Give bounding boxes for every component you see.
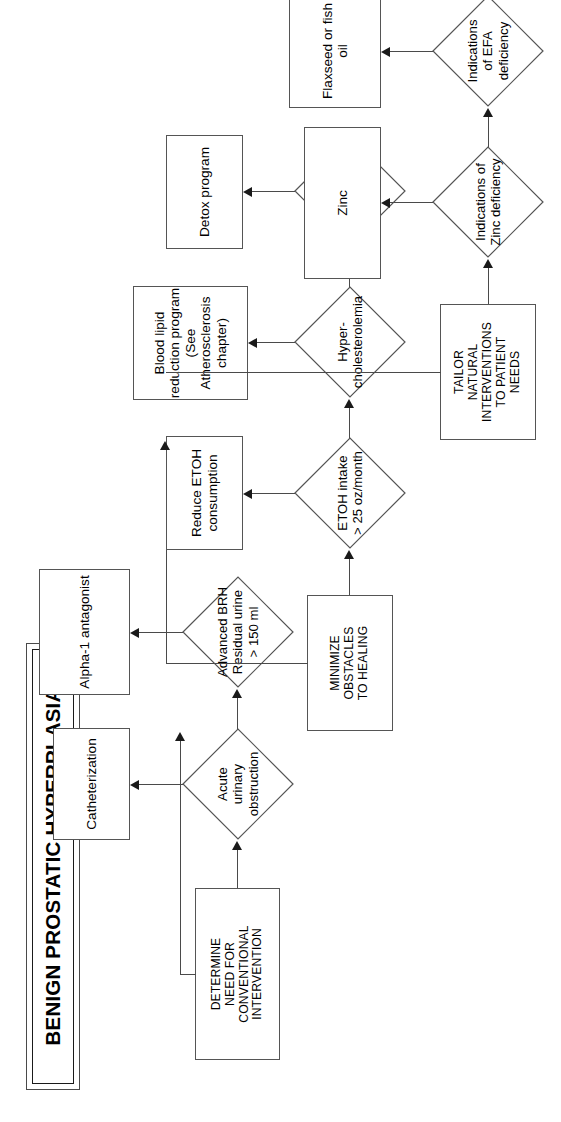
arrowhead-stage2-to-etoh (344, 550, 354, 559)
connector-zinc-to-efa (488, 114, 489, 147)
spine-stage3-riser (166, 372, 441, 373)
stage-node-conventional: DETERMINE NEED FOR CONVENTIONAL INTERVEN… (195, 888, 280, 1060)
connector-pesticide-to-detox (251, 191, 295, 192)
outcome-node-alpha1-antagonist: Alpha-1 antagonist (39, 569, 130, 695)
connector-acute-to-advanced (237, 695, 238, 729)
arrowhead-etoh-to-reduce (243, 489, 252, 499)
connector-zinc-to-zinc-outcome (389, 202, 433, 203)
arrowhead-stage1-to-acute (232, 841, 242, 850)
outcome-node-catheterization: Catheterization (53, 728, 130, 840)
decision-advanced-bph: Advanced BRH Residual urine > 150 ml (182, 576, 294, 688)
connector-etoh-to-reduce (251, 493, 295, 494)
arrowhead-acute-to-catheterization (130, 780, 139, 790)
diamond-shape (294, 437, 406, 549)
connector-etoh-to-hyperchol (349, 405, 350, 438)
diagram-title-box: BENIGN PROSTATIC HYPERPLASIA (26, 643, 80, 1090)
arrowhead-efa-to-flaxseed (381, 47, 390, 57)
diamond-shape (432, 146, 544, 258)
stage-node-natural-interventions: TAILOR NATURAL INTERVENTIONS TO PATIENT … (440, 304, 536, 440)
connector-stage2-to-etoh (349, 555, 350, 595)
outcome-node-detox-program: Detox program (166, 135, 243, 249)
arrowhead-advanced-to-alpha1 (130, 628, 139, 638)
decision-acute-urinary-obstruction: Acute urinary obstruction (182, 728, 294, 840)
arrowhead-zinc-to-efa (483, 108, 493, 117)
arrowhead-pesticide-to-detox (243, 187, 252, 197)
connector-efa-to-flaxseed (389, 51, 433, 52)
outcome-node-zinc: Zinc (304, 127, 381, 279)
connector-acute-to-catheterization (138, 784, 183, 785)
arrowhead-spine-into-stage2 (175, 732, 185, 741)
spine-stage1-riser (180, 974, 196, 975)
flowchart-canvas: BENIGN PROSTATIC HYPERPLASIA DETERMINE N… (0, 0, 561, 1122)
decision-hypercholesterolemia: Hyper- cholesterolemia (294, 286, 406, 398)
decision-efa-deficiency: Indications of EFA deficiency (432, 0, 544, 107)
diagram-rotation-wrapper: BENIGN PROSTATIC HYPERPLASIA DETERMINE N… (0, 0, 561, 1122)
arrowhead-etoh-to-hyperchol (344, 399, 354, 408)
diamond-shape (294, 286, 406, 398)
outcome-node-blood-lipid-program: Blood lipid reduction program (See Ather… (133, 286, 248, 400)
arrowhead-acute-to-advanced (232, 689, 242, 698)
stage-node-obstacles: MINIMIZE OBSTACLES TO HEALING (307, 595, 393, 731)
decision-zinc-deficiency: Indications of Zinc deficiency (432, 146, 544, 258)
arrowhead-spine-into-stage3 (160, 441, 170, 450)
diamond-shape (182, 728, 294, 840)
outcome-node-flaxseed-fish-oil: Flaxseed or fish oil (289, 0, 381, 108)
arrowhead-zinc-to-zinc-outcome (381, 198, 390, 208)
outcome-node-reduce-etoh: Reduce ETOH consumption (166, 436, 243, 550)
diagram-title-inner-border: BENIGN PROSTATIC HYPERPLASIA (32, 649, 74, 1084)
decision-etoh-intake: ETOH intake > 25 oz/month (294, 437, 406, 549)
connector-hyperchol-to-bloodlipid (256, 342, 295, 343)
diamond-shape (182, 576, 294, 688)
connector-stage3-to-zinc (488, 264, 489, 304)
connector-advanced-to-alpha1 (138, 632, 183, 633)
diamond-shape (432, 0, 544, 107)
arrowhead-stage3-to-zinc (483, 259, 493, 268)
connector-stage1-to-acute (237, 846, 238, 888)
spine-stage2-riser (166, 663, 308, 664)
arrowhead-hyperchol-to-bloodlipid (248, 338, 257, 348)
